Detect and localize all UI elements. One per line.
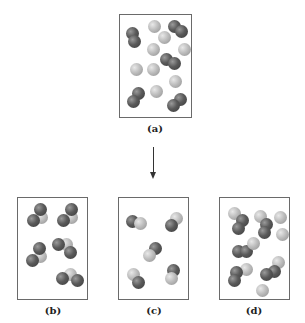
dark-atom — [56, 272, 69, 285]
light-atom — [256, 284, 269, 297]
dark-atom — [165, 219, 178, 232]
dark-atom — [232, 222, 245, 235]
dark-atom — [57, 214, 70, 227]
dark-atom — [132, 276, 145, 289]
light-atom — [169, 75, 182, 88]
dark-atom — [258, 226, 271, 239]
dark-atom — [168, 57, 181, 70]
light-atom — [148, 20, 161, 33]
panel-b-label: (b) — [33, 305, 73, 316]
panel-d-label: (d) — [234, 305, 274, 316]
light-atom — [134, 217, 147, 230]
panel-a-label: (a) — [135, 123, 175, 134]
panel-b-box — [17, 197, 88, 300]
dark-atom — [167, 99, 180, 112]
light-atom — [274, 211, 287, 224]
light-atom — [143, 249, 156, 262]
dark-atom — [64, 246, 77, 259]
light-atom — [247, 237, 260, 250]
light-atom — [158, 31, 171, 44]
arrow-head-icon — [150, 172, 156, 179]
light-atom — [150, 85, 163, 98]
light-atom — [130, 63, 143, 76]
panel-c-label: (c) — [134, 305, 174, 316]
dark-atom — [260, 268, 273, 281]
panel-c-box — [118, 197, 189, 300]
dark-atom — [71, 274, 84, 287]
dark-atom — [52, 238, 65, 251]
panel-a-box — [119, 14, 192, 118]
dark-atom — [33, 242, 46, 255]
light-atom — [147, 63, 160, 76]
light-atom — [276, 228, 289, 241]
dark-atom — [26, 254, 39, 267]
light-atom — [147, 43, 160, 56]
panel-d-box — [219, 197, 290, 300]
light-atom — [165, 272, 178, 285]
dark-atom — [27, 214, 40, 227]
light-atom — [178, 43, 191, 56]
dark-atom — [175, 25, 188, 38]
dark-atom — [228, 274, 241, 287]
dark-atom — [128, 35, 141, 48]
reaction-arrow — [153, 147, 154, 175]
dark-atom — [127, 95, 140, 108]
